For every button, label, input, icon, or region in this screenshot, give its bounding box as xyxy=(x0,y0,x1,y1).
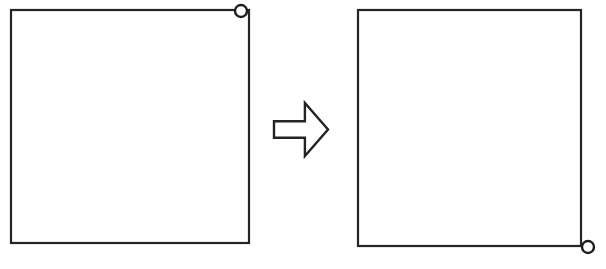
corner-marker-after-icon xyxy=(582,241,594,253)
square-after xyxy=(358,10,581,246)
right-arrow-icon xyxy=(274,103,328,156)
diagram-canvas: Square with corner point before and afte… xyxy=(0,0,606,269)
corner-marker-before-icon xyxy=(235,5,247,17)
after-group xyxy=(358,10,594,253)
transform-arrow-group xyxy=(274,103,328,156)
before-group xyxy=(11,5,249,243)
figure-svg xyxy=(0,0,606,269)
square-before xyxy=(11,10,249,243)
